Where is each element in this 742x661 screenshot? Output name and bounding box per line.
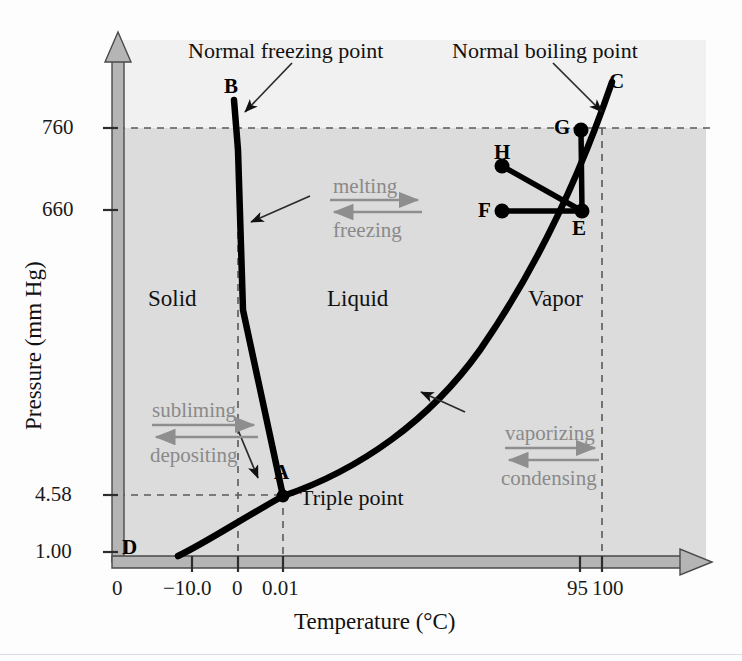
region-label-vapor: Vapor (528, 287, 583, 310)
phase-diagram-canvas (0, 0, 742, 661)
phase-diagram-figure: 760 660 4.58 1.00 0 −10.0 0 0.01 95 100 … (0, 0, 742, 661)
xtick-label-origin: 0 (112, 578, 123, 599)
region-label-liquid: Liquid (327, 287, 388, 310)
point-label-c: C (609, 71, 624, 92)
process-label-condensing: condensing (501, 468, 597, 489)
point-label-d: D (122, 537, 137, 558)
xtick-label-95: 95 (567, 578, 588, 599)
process-label-subliming: subliming (152, 400, 236, 421)
y-axis-title: Pressure (mm Hg) (22, 261, 45, 430)
process-label-depositing: depositing (150, 445, 238, 466)
xtick-label-001: 0.01 (262, 578, 299, 599)
marker-point-f (495, 204, 510, 219)
point-label-h: H (494, 142, 510, 163)
point-label-b: B (224, 76, 238, 97)
ytick-label-100: 1.00 (35, 541, 72, 562)
process-label-vaporizing: vaporizing (505, 423, 595, 444)
xtick-label-minus10: −10.0 (163, 578, 212, 599)
point-label-g: G (554, 117, 570, 138)
point-label-f: F (478, 200, 491, 221)
callout-normal-boiling-point: Normal boiling point (452, 40, 638, 62)
ytick-label-760: 760 (42, 117, 74, 138)
callout-normal-freezing-point: Normal freezing point (188, 40, 384, 62)
callout-triple-point: Triple point (300, 487, 404, 509)
xtick-label-0: 0 (232, 578, 243, 599)
bottom-divider (0, 654, 742, 655)
point-label-e: E (572, 218, 586, 239)
point-label-a: A (274, 462, 289, 483)
region-label-solid: Solid (148, 287, 197, 310)
plot-background (118, 40, 706, 562)
marker-point-a (277, 490, 290, 503)
ytick-label-660: 660 (42, 199, 74, 220)
segment-g-to-e (581, 130, 582, 211)
marker-point-g (574, 123, 589, 138)
x-axis-title: Temperature (°C) (294, 610, 455, 633)
ytick-label-458: 4.58 (35, 484, 72, 505)
process-label-freezing: freezing (333, 220, 402, 241)
xtick-label-100: 100 (592, 578, 624, 599)
process-label-melting: melting (333, 176, 397, 197)
